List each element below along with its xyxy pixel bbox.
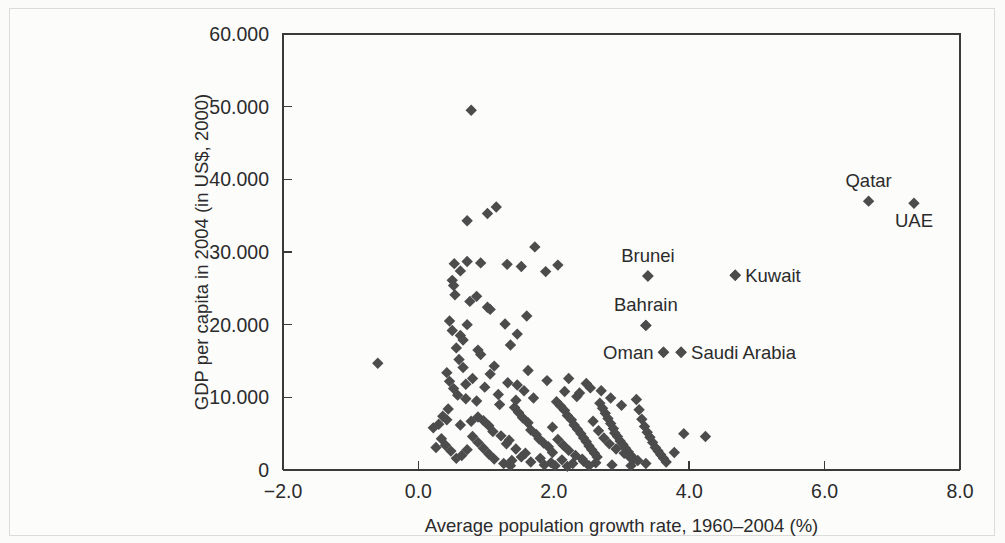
data-point bbox=[521, 310, 532, 321]
data-point bbox=[430, 442, 441, 453]
x-tick-label: 8.0 bbox=[946, 480, 973, 502]
data-point-labeled bbox=[908, 198, 919, 209]
data-point-labeled bbox=[863, 195, 874, 206]
data-point bbox=[491, 201, 502, 212]
point-annotation: Brunei bbox=[621, 245, 674, 266]
data-point bbox=[552, 259, 563, 270]
y-tick-label: 30.000 bbox=[209, 241, 269, 263]
data-point bbox=[563, 373, 574, 384]
data-point bbox=[502, 377, 513, 388]
data-point bbox=[606, 459, 617, 470]
data-point bbox=[540, 266, 551, 277]
x-axis-title: Average population growth rate, 1960–200… bbox=[425, 515, 819, 536]
x-tick-label: 6.0 bbox=[811, 480, 838, 502]
data-point bbox=[494, 399, 505, 410]
scatter-plot: 010.00020.00030.00040.00050.00060.000−2.… bbox=[0, 0, 1005, 543]
data-point bbox=[587, 416, 598, 427]
y-tick-label: 50.000 bbox=[209, 96, 269, 118]
data-point bbox=[461, 256, 472, 267]
data-point bbox=[633, 404, 644, 415]
data-point bbox=[441, 367, 452, 378]
data-point bbox=[541, 375, 552, 386]
y-tick-label: 10.000 bbox=[209, 386, 269, 408]
data-point bbox=[605, 392, 616, 403]
data-point-labeled bbox=[640, 320, 651, 331]
data-point bbox=[669, 447, 680, 458]
data-point bbox=[501, 259, 512, 270]
x-tick-label: 2.0 bbox=[540, 480, 567, 502]
data-point bbox=[499, 318, 510, 329]
point-annotation: Qatar bbox=[845, 170, 891, 191]
data-point bbox=[479, 381, 490, 392]
data-point bbox=[559, 386, 570, 397]
x-tick-label: −2.0 bbox=[264, 480, 303, 502]
point-annotation: Kuwait bbox=[745, 265, 801, 286]
data-point bbox=[700, 431, 711, 442]
data-point bbox=[522, 365, 533, 376]
data-point bbox=[631, 394, 642, 405]
data-point bbox=[461, 319, 472, 330]
data-point bbox=[461, 215, 472, 226]
figure-container: 010.00020.00030.00040.00050.00060.000−2.… bbox=[0, 0, 1005, 543]
data-point bbox=[475, 257, 486, 268]
data-point bbox=[678, 428, 689, 439]
data-point bbox=[616, 400, 627, 411]
data-point bbox=[529, 241, 540, 252]
point-annotation: UAE bbox=[895, 210, 933, 231]
y-axis-title: GDP per capita in 2004 (in US$, 2000) bbox=[191, 94, 212, 410]
data-point bbox=[510, 395, 521, 406]
point-annotation: Bahrain bbox=[614, 294, 678, 315]
y-tick-label: 60.000 bbox=[209, 23, 269, 45]
data-point-labeled bbox=[675, 347, 686, 358]
y-tick-label: 40.000 bbox=[209, 168, 269, 190]
x-tick-label: 4.0 bbox=[676, 480, 703, 502]
y-tick-label: 0 bbox=[258, 459, 269, 481]
data-point bbox=[547, 421, 558, 432]
data-point bbox=[455, 419, 466, 430]
data-point bbox=[449, 289, 460, 300]
data-point bbox=[505, 339, 516, 350]
data-point bbox=[595, 385, 606, 396]
data-point bbox=[528, 392, 539, 403]
data-point bbox=[372, 357, 383, 368]
data-point bbox=[516, 261, 527, 272]
x-tick-label: 0.0 bbox=[405, 480, 432, 502]
data-point-labeled bbox=[658, 347, 669, 358]
data-point bbox=[493, 389, 504, 400]
data-point-labeled bbox=[642, 270, 653, 281]
data-point bbox=[451, 342, 462, 353]
point-annotation: Oman bbox=[603, 342, 653, 363]
point-annotation: Saudi Arabia bbox=[691, 342, 797, 363]
data-point bbox=[466, 105, 477, 116]
data-point bbox=[512, 328, 523, 339]
data-point bbox=[482, 208, 493, 219]
data-point bbox=[471, 395, 482, 406]
data-point-labeled bbox=[730, 270, 741, 281]
data-point bbox=[444, 315, 455, 326]
y-tick-label: 20.000 bbox=[209, 314, 269, 336]
data-point bbox=[525, 456, 536, 467]
